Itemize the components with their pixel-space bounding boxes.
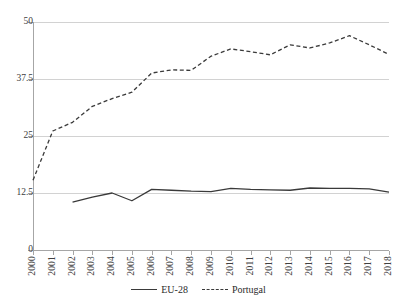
chart-legend: EU-28Portugal [0,281,397,297]
legend-item-portugal[interactable]: Portugal [202,284,266,295]
series-line-eu-28 [73,188,389,202]
series-layer [0,0,397,298]
series-line-portugal [33,36,389,181]
legend-label: EU-28 [161,284,188,295]
legend-swatch-dashed-line-icon [202,286,228,293]
legend-item-eu-28[interactable]: EU-28 [131,284,188,295]
legend-label: Portugal [232,284,266,295]
legend-swatch-solid-line-icon [131,286,157,293]
line-chart: · ·· · 012.52537.550 2000200120022003200… [0,0,397,298]
